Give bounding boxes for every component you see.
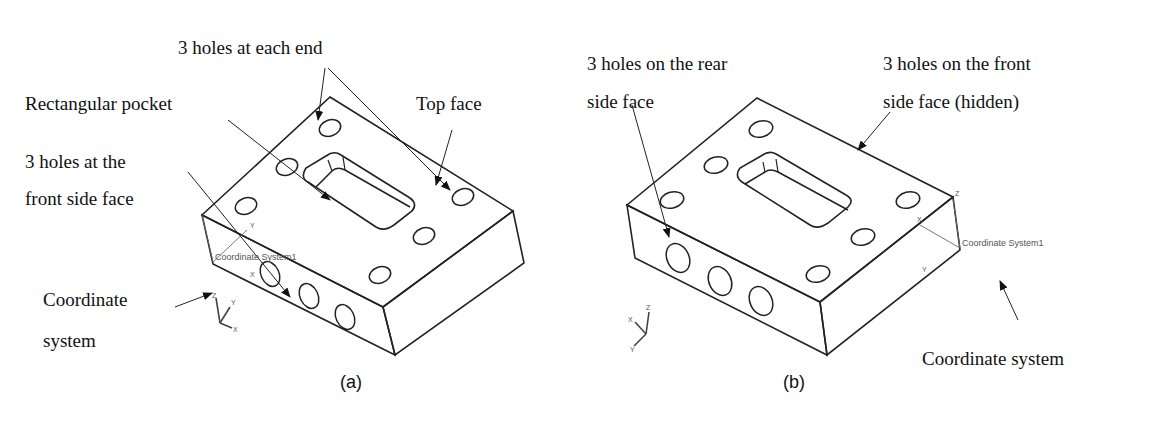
label-coordinate-line1: Coordinate: [43, 288, 127, 311]
caption-a: (a): [340, 372, 362, 393]
label-rectangular-pocket: Rectangular pocket: [25, 92, 172, 115]
label-top-face: Top face: [416, 92, 482, 115]
svg-text:Z: Z: [212, 292, 217, 299]
rear-side-face-b: [627, 205, 827, 355]
rectangular-pocket-a: [303, 153, 414, 229]
triad-icon-b: Z X Y: [628, 304, 651, 353]
svg-text:X: X: [917, 216, 922, 223]
top-face-a: [202, 97, 513, 307]
block-b: [627, 98, 960, 355]
svg-text:X: X: [628, 316, 633, 323]
side-holes-a: [256, 258, 358, 332]
svg-text:Z: Z: [955, 190, 960, 197]
svg-text:X: X: [250, 271, 255, 278]
label-holes-each-end: 3 holes at each end: [178, 36, 323, 59]
label-holes-rear-line1: 3 holes on the rear: [587, 52, 727, 75]
svg-text:X: X: [233, 326, 238, 333]
end-face-b: [820, 197, 960, 355]
end-face-a: [383, 211, 524, 355]
svg-text:Y: Y: [922, 266, 927, 273]
top-holes-b: [658, 118, 921, 285]
leaders-b: [632, 105, 1018, 320]
rectangular-pocket-b: [737, 152, 851, 227]
front-side-face-a: [202, 215, 395, 355]
svg-text:Coordinate System1: Coordinate System1: [962, 238, 1044, 248]
svg-text:Y: Y: [250, 222, 255, 229]
svg-text:Y: Y: [630, 346, 635, 353]
label-holes-front-hidden-line2: side face (hidden): [883, 90, 1019, 113]
label-holes-front-hidden-line1: 3 holes on the front: [883, 52, 1031, 75]
label-coordinate-system-b: Coordinate system: [922, 347, 1064, 370]
svg-text:Coordinate System1: Coordinate System1: [215, 252, 297, 262]
label-holes-front-line1: 3 holes at the: [25, 150, 126, 173]
svg-text:Y: Y: [231, 299, 236, 306]
coordinate-system-b: Coordinate System1 Z X Y: [917, 190, 1044, 273]
label-coordinate-line2: system: [43, 329, 96, 352]
caption-b: (b): [783, 372, 805, 393]
label-holes-front-line2: front side face: [25, 187, 134, 210]
triad-icon-a: Z Y X: [212, 292, 238, 333]
label-holes-rear-line2: side face: [587, 90, 654, 113]
svg-text:Z: Z: [646, 304, 651, 311]
